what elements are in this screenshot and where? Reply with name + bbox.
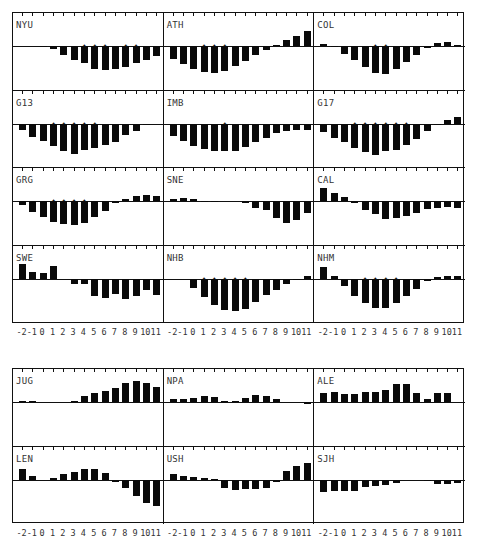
bar	[393, 124, 400, 150]
tick-mark	[307, 91, 308, 94]
tick-mark	[193, 447, 194, 450]
bar	[81, 46, 88, 63]
bar	[424, 201, 431, 209]
bar	[242, 46, 249, 61]
tick-mark	[214, 447, 215, 450]
tick-mark	[235, 13, 236, 16]
bar	[393, 480, 400, 483]
panel-label: ATH	[167, 20, 184, 30]
tick-mark	[43, 168, 44, 171]
bar	[170, 124, 177, 136]
bar	[304, 276, 311, 279]
tick-mark	[447, 369, 448, 372]
tick-mark	[84, 246, 85, 249]
bar	[341, 197, 348, 201]
bar	[382, 201, 389, 219]
bar	[320, 188, 327, 201]
panel-len: LEN	[13, 447, 164, 525]
tick-mark	[245, 369, 246, 372]
bar	[304, 31, 311, 46]
tick-mark	[296, 168, 297, 171]
tick-mark	[255, 168, 256, 171]
bar	[143, 46, 150, 60]
bar	[133, 196, 140, 201]
tick-mark	[276, 13, 277, 16]
tick-mark	[63, 369, 64, 372]
bar	[444, 393, 451, 402]
tick-mark	[286, 246, 287, 249]
tick-mark	[323, 13, 324, 16]
bar	[444, 480, 451, 484]
tick-mark	[74, 168, 75, 171]
tick-mark	[437, 447, 438, 450]
tick-mark	[334, 13, 335, 16]
tick-mark	[447, 447, 448, 450]
tick-mark	[214, 91, 215, 94]
bar	[112, 480, 119, 482]
tick-mark	[115, 168, 116, 171]
tick-mark	[344, 91, 345, 94]
bar	[444, 42, 451, 46]
bar	[133, 46, 140, 63]
bar	[242, 124, 249, 147]
x-tick-label: 11	[150, 528, 162, 538]
bar	[293, 466, 300, 480]
bar	[382, 124, 389, 151]
bar	[153, 196, 160, 201]
tick-mark	[416, 13, 417, 16]
panel-label: SWE	[16, 253, 33, 263]
bar	[91, 201, 98, 217]
bar	[362, 46, 369, 67]
tick-mark	[385, 369, 386, 372]
tick-mark	[406, 246, 407, 249]
bar	[372, 46, 379, 73]
bar	[71, 472, 78, 480]
bar	[221, 124, 228, 151]
bar	[201, 478, 208, 480]
tick-mark	[323, 91, 324, 94]
panel-label: COL	[317, 20, 334, 30]
x-tick-label: 11	[451, 528, 463, 538]
tick-mark	[156, 447, 157, 450]
bar	[133, 480, 140, 496]
bar	[40, 46, 47, 47]
tick-mark	[416, 447, 417, 450]
tick-mark	[437, 168, 438, 171]
tick-mark	[266, 246, 267, 249]
bar	[170, 399, 177, 402]
bottom-x-axis-labels: -2-101234567891011-2-101234567891011-2-1…	[12, 528, 464, 540]
bar	[424, 399, 431, 402]
tick-mark	[53, 168, 54, 171]
tick-mark	[437, 91, 438, 94]
bar	[122, 124, 129, 135]
tick-mark	[396, 447, 397, 450]
bar	[71, 201, 78, 225]
bar	[413, 46, 420, 55]
zero-line	[164, 402, 314, 403]
bar	[252, 201, 259, 208]
tick-mark	[22, 168, 23, 171]
tick-mark	[193, 13, 194, 16]
bar	[263, 279, 270, 295]
significance-star-icon: ★	[71, 197, 78, 203]
tick-mark	[115, 447, 116, 450]
bar	[403, 201, 410, 216]
significance-star-icon: ★	[81, 120, 88, 126]
tick-mark	[136, 369, 137, 372]
tick-mark	[354, 369, 355, 372]
bar	[180, 476, 187, 480]
tick-mark	[136, 447, 137, 450]
bar	[122, 199, 129, 201]
bar	[112, 279, 119, 294]
bar	[424, 480, 431, 481]
tick-mark	[255, 369, 256, 372]
significance-star-icon: ★	[372, 120, 379, 126]
tick-mark	[385, 246, 386, 249]
tick-mark	[266, 13, 267, 16]
significance-star-icon: ★	[91, 42, 98, 48]
tick-mark	[286, 447, 287, 450]
tick-mark	[193, 369, 194, 372]
tick-mark	[63, 168, 64, 171]
tick-mark	[125, 246, 126, 249]
tick-mark	[43, 13, 44, 16]
